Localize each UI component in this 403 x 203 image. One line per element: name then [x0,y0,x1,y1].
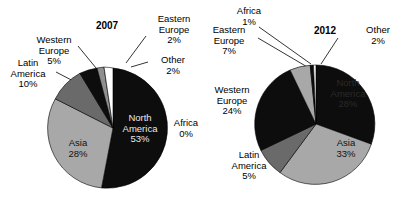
pie-chart-2012: Africa 1% Eastern Europe 7% 2012 Other 2… [201,0,403,203]
label-text-line2: Europe [217,95,248,106]
label-other-2012: Other 2% [356,25,400,46]
pie-chart-2007: 2007 Eastern Europe 2% Other 2% Western … [0,0,202,203]
label-text-line1: North [128,112,151,123]
label-text: Africa [174,117,198,128]
leader-line-africa [259,27,311,64]
label-asia-2007: Asia 28% [58,138,98,159]
label-pct: 10% [0,79,56,90]
label-text: Other [161,54,185,65]
leader-line-other [321,38,338,64]
label-eastern-europe-2012: Eastern Europe 7% [201,25,257,57]
label-text: Asia [69,137,87,148]
chart-title-2007: 2007 [96,20,118,31]
label-text-line1: Latin [239,149,260,160]
leader-line-eastern-europe [258,38,309,68]
label-eastern-europe-2007: Eastern Europe 2% [148,14,200,46]
label-text: Other [366,24,390,35]
label-text-line1: Western [214,84,249,95]
label-western-europe-2012: Western Europe 24% [202,85,262,117]
chart-title-2012: 2012 [314,25,336,36]
label-north-america-2012: North America 28% [320,78,376,110]
label-text-line2: America [232,160,267,171]
label-text-line2: Europe [39,45,70,56]
label-pct: 7% [201,46,257,57]
label-pct: 5% [221,171,277,182]
label-latin-america-2012: Latin America 5% [221,150,277,182]
label-other-2007: Other 2% [150,55,196,76]
label-pct: 24% [202,106,262,117]
label-text: Asia [337,137,355,148]
label-pct: 53% [112,134,168,145]
label-text-line1: North [336,77,359,88]
label-pct: 28% [58,149,98,160]
label-text-line2: America [123,123,158,134]
label-pct: 28% [320,99,376,110]
label-latin-america-2007: Latin America 10% [0,58,56,90]
label-text-line1: Western [36,34,71,45]
label-text-line2: America [331,88,366,99]
label-text-line1: Eastern [158,13,191,24]
pie-chart-figure: 2007 Eastern Europe 2% Other 2% Western … [0,0,403,203]
label-text-line2: Europe [159,24,190,35]
label-text: Africa [237,5,261,16]
label-pct: 2% [356,36,400,47]
label-pct: 0% [166,129,206,140]
label-africa-2007: Africa 0% [166,118,206,139]
label-text-line1: Eastern [213,24,246,35]
label-asia-2012: Asia 33% [325,138,367,159]
leader-line-other [131,62,148,67]
label-pct: 2% [148,35,200,46]
label-north-america-2007: North America 53% [112,113,168,145]
label-pct: 33% [325,149,367,160]
leader-line-eastern-europe [126,36,146,63]
label-text-line2: Europe [214,35,245,46]
label-pct: 2% [150,66,196,77]
label-text-line1: Latin [18,57,39,68]
label-text-line2: America [11,68,46,79]
